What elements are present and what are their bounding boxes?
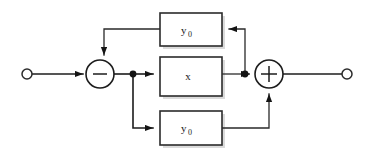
- block-top-label-subscript: 0: [188, 30, 192, 39]
- block-top-label: y: [181, 24, 187, 36]
- sum-plus[interactable]: [255, 60, 283, 88]
- block-diagram-svg: y 0 x y 0: [0, 0, 368, 155]
- wire-block-bottom-to-sum-plus: [222, 94, 269, 128]
- block-middle-label: x: [185, 70, 191, 82]
- block-middle[interactable]: x: [160, 57, 222, 96]
- output-terminal[interactable]: [342, 69, 352, 79]
- block-bottom-label-subscript: 0: [188, 128, 192, 137]
- block-bottom-label: y: [181, 122, 187, 134]
- wire-block-top-to-sum-minus: [104, 29, 160, 55]
- block-bottom[interactable]: y 0: [160, 111, 222, 145]
- block-top[interactable]: y 0: [160, 13, 222, 46]
- wire-node-a-to-block-bottom: [133, 74, 153, 128]
- sum-minus[interactable]: [86, 60, 114, 88]
- wire-node-b-to-block-top: [229, 29, 245, 74]
- block-diagram-canvas: y 0 x y 0: [0, 0, 368, 155]
- node-b: [242, 71, 249, 78]
- input-terminal[interactable]: [22, 69, 32, 79]
- node-a: [130, 71, 137, 78]
